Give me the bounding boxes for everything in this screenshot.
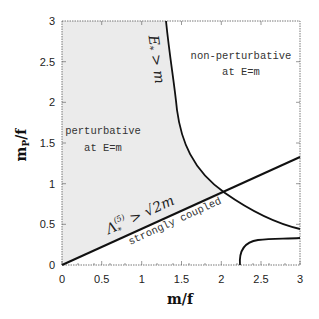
svg-text:1.5: 1.5	[40, 137, 55, 149]
label-perturbative-energy: at E=m	[84, 142, 122, 154]
svg-text:1: 1	[139, 273, 145, 285]
x-axis-title: m/f	[167, 291, 194, 307]
svg-text:0: 0	[59, 273, 65, 285]
svg-text:2.5: 2.5	[253, 273, 268, 285]
phase-diagram-chart: 0 0.5 1 1.5 2 2.5 3 0 0.5 1 1.5 2 2.5 3 …	[0, 0, 319, 319]
svg-text:2: 2	[218, 273, 224, 285]
lower-boundary-curve	[240, 238, 300, 265]
x-minor-ticks	[62, 261, 300, 265]
svg-text:0.5: 0.5	[40, 218, 55, 230]
label-nonperturbative: non-perturbative	[191, 50, 292, 62]
svg-text:3: 3	[49, 15, 55, 27]
svg-text:1.5: 1.5	[174, 273, 189, 285]
label-perturbative: perturbative	[65, 125, 141, 137]
x-tick-labels: 0 0.5 1 1.5 2 2.5 3	[59, 273, 303, 285]
svg-text:2: 2	[49, 96, 55, 108]
label-nonperturbative-energy: at E=m	[222, 66, 260, 78]
y-tick-labels: 0 0.5 1 1.5 2 2.5 3	[40, 15, 55, 271]
svg-text:0.5: 0.5	[94, 273, 109, 285]
svg-text:2.5: 2.5	[40, 56, 55, 68]
y-axis-title: mP/f	[13, 128, 31, 162]
svg-text:1: 1	[49, 178, 55, 190]
svg-text:3: 3	[297, 273, 303, 285]
svg-text:0: 0	[49, 259, 55, 271]
